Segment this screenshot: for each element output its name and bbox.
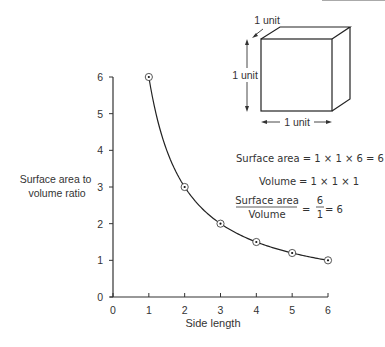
- surface-area-equation: Surface area = 1 × 1 × 6 = 6: [236, 153, 384, 164]
- y-axis-label: Surface area to volume ratio: [20, 173, 95, 199]
- data-point: [289, 249, 296, 256]
- volume-rhs: = 1 × 1 × 1: [299, 176, 359, 187]
- x-tick-label: 0: [110, 304, 116, 316]
- cube-front-face: [261, 39, 332, 111]
- data-point: [217, 220, 224, 227]
- y-tick-label: 6: [97, 71, 103, 83]
- ratio-frac-num: 6: [317, 195, 323, 206]
- ratio-numerator: Surface area: [235, 195, 299, 206]
- volume-label: Volume: [259, 176, 296, 187]
- y-tick-label: 2: [97, 218, 103, 230]
- unit-cube-diagram: 1 unit 1 unit 1 unit: [230, 14, 350, 128]
- x-tick-label: 5: [289, 304, 295, 316]
- y-tick-label: 1: [97, 254, 103, 266]
- cube-top-face: [261, 27, 350, 39]
- y-tick-label: 5: [97, 108, 103, 120]
- data-point: [253, 238, 260, 245]
- x-tick-label: 3: [218, 304, 224, 316]
- equations: Surface area = 1 × 1 × 6 = 6 Volume = 1 …: [235, 153, 384, 220]
- cube-side-face: [332, 27, 350, 111]
- data-point: [145, 73, 152, 80]
- cube-height-label: 1 unit: [232, 69, 258, 81]
- data-point: [324, 257, 331, 264]
- data-point: [181, 183, 188, 190]
- x-axis: 0123456: [110, 293, 331, 316]
- ratio-denominator: Volume: [248, 209, 285, 220]
- ratio-result: = 6: [325, 204, 343, 215]
- x-tick-label: 1: [146, 304, 152, 316]
- ratio-equals: =: [302, 204, 310, 215]
- cube-depth-label: 1 unit: [254, 14, 280, 26]
- x-tick-label: 4: [253, 304, 259, 316]
- x-axis-label: Side length: [185, 317, 240, 329]
- y-axis: 0123456: [97, 71, 113, 303]
- y-tick-label: 0: [97, 291, 103, 303]
- y-tick-label: 3: [97, 181, 103, 193]
- y-tick-label: 4: [97, 144, 103, 156]
- x-tick-label: 2: [182, 304, 188, 316]
- ratio-frac-den: 1: [317, 209, 323, 220]
- chart-figure: 0123456 0123456 Side length Surface area…: [0, 0, 385, 347]
- x-tick-label: 6: [325, 304, 331, 316]
- cube-width-label: 1 unit: [284, 116, 310, 128]
